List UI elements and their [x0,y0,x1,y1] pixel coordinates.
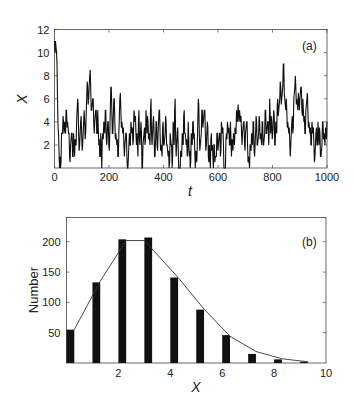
y-tick-label: 2 [43,139,49,151]
fit-curve [74,241,308,362]
x-tick-label: 8 [271,367,277,379]
y-tick-label: 200 [42,236,60,248]
x-tick-label: 600 [209,171,227,183]
x-tick-label: 800 [263,171,281,183]
histogram-bar [144,238,152,363]
x-tick-label: 200 [100,171,118,183]
y-tick-label: 4 [43,116,49,128]
panel-b: 50100150200 246810 (b) X Number [26,218,332,396]
panel-b-label: (b) [302,235,317,249]
time-series-line [55,41,328,168]
histogram-bar [222,335,230,363]
x-tick-label: 400 [154,171,172,183]
figure: 24681012 02004006008001000 (a) t X 50100… [0,0,354,402]
histogram-bar [118,239,126,363]
y-tick-label: 100 [42,296,60,308]
panel-a: 24681012 02004006008001000 (a) t X [14,24,339,200]
panel-b-x-ticks: 246810 [115,367,332,379]
panel-a-x-axis-label: t [188,183,193,199]
x-tick-label: 6 [219,367,225,379]
panel-b-y-axis-label: Number [26,266,41,313]
x-tick-label: 0 [51,171,57,183]
panel-b-x-axis-label: X [190,379,201,395]
histogram-bar [248,354,256,363]
y-tick-label: 150 [42,266,60,278]
x-tick-label: 1000 [315,171,339,183]
histogram-bar [196,310,204,363]
x-tick-label: 2 [115,367,121,379]
y-tick-label: 6 [43,93,49,105]
y-tick-label: 8 [43,70,49,82]
y-tick-label: 10 [37,47,49,59]
histogram-bar [67,330,75,363]
histogram-bar [274,359,282,363]
histogram-bars [67,238,308,363]
panel-a-y-axis-label: X [14,94,30,105]
x-tick-label: 4 [167,367,173,379]
y-tick-label: 50 [48,327,60,339]
histogram-bar [170,278,178,363]
x-tick-label: 10 [320,367,332,379]
y-tick-label: 12 [37,24,49,36]
panel-a-label: (a) [302,39,317,53]
panel-b-y-ticks: 50100150200 [42,236,326,339]
